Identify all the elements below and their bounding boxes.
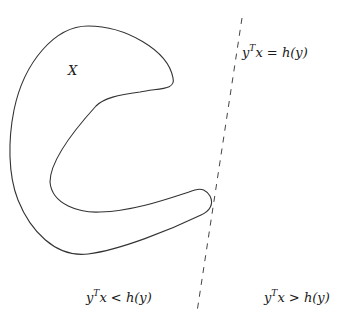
hyperplane-label-rhs: h(y) [282, 45, 308, 60]
set-x-boundary [10, 26, 212, 254]
hyperplane-label-rest: x = [255, 45, 282, 60]
halfspace-left-rhs: h(y) [126, 290, 152, 305]
halfspace-left-rest: x < [99, 290, 126, 305]
set-x-label: X [68, 64, 77, 77]
halfspace-right-rest: x > [277, 290, 304, 305]
hyperplane-label-sup: T [249, 43, 255, 53]
halfspace-right-rhs: h(y) [304, 290, 330, 305]
halfspace-right-sup: T [271, 288, 277, 298]
halfspace-left-sup: T [93, 288, 99, 298]
separating-hyperplane [197, 18, 242, 312]
hyperplane-label: yTx = h(y) [242, 45, 308, 59]
set-x-text: X [68, 63, 77, 78]
halfspace-right-label: yTx > h(y) [264, 290, 330, 304]
halfspace-left-label: yTx < h(y) [86, 290, 152, 304]
